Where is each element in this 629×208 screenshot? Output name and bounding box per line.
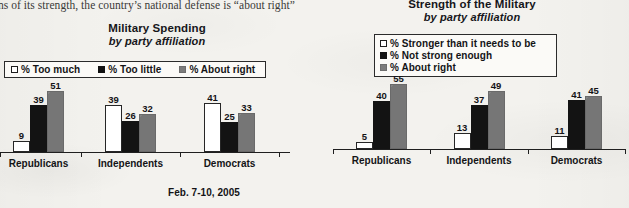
legend-label: % Too much <box>21 64 80 75</box>
bar-stronger: 5 <box>356 142 373 149</box>
axis-tick <box>333 150 334 154</box>
legend-swatch-white-icon <box>380 40 387 47</box>
bar-slot: 39 <box>30 79 47 152</box>
bar-value-label: 13 <box>457 123 468 133</box>
bar-value-label: 45 <box>588 86 599 96</box>
bar-slot: 32 <box>139 79 156 152</box>
bar-about-right: 33 <box>238 113 255 152</box>
chart-strength-of-the-military: Strength of the Military by party affili… <box>315 0 629 208</box>
plot-area: 9 39 51 39 <box>0 80 290 153</box>
bar-slot: 41 <box>568 75 585 149</box>
body-text-fragment: ns of its strength, the country’s nation… <box>0 0 298 11</box>
bar-not-strong-enough: 40 <box>373 101 390 149</box>
bar-not-strong-enough: 41 <box>568 100 585 149</box>
bar-slot: 26 <box>122 79 139 152</box>
legend-item-not-strong-enough: % Not strong enough <box>380 49 551 61</box>
bar-slot: 13 <box>454 75 471 149</box>
bar-slot: 37 <box>471 75 488 149</box>
legend-item-about-right: % About right <box>179 64 255 75</box>
bar-slot: 5 <box>356 75 373 149</box>
bar-stronger: 13 <box>454 133 471 149</box>
bar-too-much: 41 <box>204 103 221 152</box>
bar-slot: 25 <box>221 79 238 152</box>
bar-slot: 9 <box>13 79 30 152</box>
bar-value-label: 51 <box>50 81 61 91</box>
bar-value-label: 55 <box>393 74 404 84</box>
bar-too-little: 26 <box>122 121 139 152</box>
category-label-independents: Independents <box>81 158 180 169</box>
legend-swatch-gray-icon <box>380 64 387 71</box>
chart-subtitle: by party affiliation <box>0 35 314 48</box>
bar-group-republicans: 5 40 55 <box>333 75 430 149</box>
bar-value-label: 5 <box>362 132 367 142</box>
legend-item-too-much: % Too much <box>11 64 80 75</box>
bar-value-label: 33 <box>241 103 252 113</box>
legend-label: % About right <box>390 62 456 73</box>
x-axis-line <box>333 149 626 150</box>
bar-slot: 33 <box>238 79 255 152</box>
bar-value-label: 26 <box>125 111 136 121</box>
bar-value-label: 39 <box>108 95 119 105</box>
category-label-democrats: Democrats <box>180 158 279 169</box>
bar-value-label: 39 <box>33 95 44 105</box>
bar-about-right: 32 <box>139 114 156 152</box>
chart-military-spending: Military Spending by party affiliation %… <box>0 22 314 208</box>
bar-slot: 11 <box>551 75 568 149</box>
category-label-democrats: Democrats <box>528 155 625 166</box>
plot-area: 5 40 55 13 <box>333 76 626 150</box>
bar-value-label: 25 <box>224 112 235 122</box>
bar-slot: 40 <box>373 75 390 149</box>
bar-value-label: 32 <box>142 104 153 114</box>
x-axis-line <box>0 152 290 153</box>
chart-title: Strength of the Military <box>315 0 629 11</box>
bar-about-right: 55 <box>390 84 407 149</box>
bar-too-much: 39 <box>105 105 122 152</box>
chart-footnote-date: Feb. 7-10, 2005 <box>168 187 240 198</box>
bar-too-much: 9 <box>13 141 30 152</box>
axis-tick <box>625 150 626 154</box>
bar-slot: 51 <box>47 79 64 152</box>
chart-legend: % Stronger than it needs to be % Not str… <box>374 34 557 77</box>
bar-about-right: 51 <box>47 91 64 152</box>
bar-group-republicans: 9 39 51 <box>0 79 81 152</box>
bar-not-strong-enough: 37 <box>471 105 488 149</box>
legend-label: % Too little <box>108 64 161 75</box>
axis-tick <box>430 150 431 154</box>
axis-tick <box>0 153 1 157</box>
bar-slot: 39 <box>105 79 122 152</box>
category-label-republicans: Republicans <box>333 155 430 166</box>
bar-group-democrats: 41 25 33 <box>180 79 279 152</box>
bar-value-label: 41 <box>571 90 582 100</box>
axis-tick <box>81 153 82 157</box>
bar-about-right: 45 <box>585 96 602 149</box>
bar-value-label: 9 <box>19 131 24 141</box>
bar-slot: 41 <box>204 79 221 152</box>
category-label-republicans: Republicans <box>0 158 81 169</box>
chart-title: Military Spending <box>0 22 314 35</box>
legend-label: % Not strong enough <box>390 50 492 61</box>
bar-value-label: 40 <box>376 91 387 101</box>
category-label-independents: Independents <box>430 155 528 166</box>
legend-label: % About right <box>189 64 255 75</box>
axis-tick <box>279 153 280 157</box>
legend-item-too-little: % Too little <box>98 64 161 75</box>
chart-subtitle: by party affiliation <box>315 11 629 24</box>
bar-too-little: 39 <box>30 105 47 152</box>
chart-legend: % Too much % Too little % About right <box>4 61 266 78</box>
bar-group-democrats: 11 41 45 <box>528 75 625 149</box>
legend-label: % Stronger than it needs to be <box>390 38 536 49</box>
bar-value-label: 11 <box>554 126 564 136</box>
axis-tick <box>528 150 529 154</box>
legend-swatch-gray-icon <box>179 66 186 73</box>
bar-value-label: 49 <box>491 81 502 91</box>
bar-value-label: 41 <box>207 93 218 103</box>
legend-item-about-right: % About right <box>380 61 551 73</box>
bar-too-little: 25 <box>221 122 238 152</box>
legend-swatch-black-icon <box>98 66 105 73</box>
bar-value-label: 37 <box>474 95 485 105</box>
bar-slot: 45 <box>585 75 602 149</box>
bar-slot: 49 <box>488 75 505 149</box>
legend-swatch-white-icon <box>11 66 18 73</box>
bar-slot: 55 <box>390 75 407 149</box>
bar-group-independents: 13 37 49 <box>430 75 528 149</box>
